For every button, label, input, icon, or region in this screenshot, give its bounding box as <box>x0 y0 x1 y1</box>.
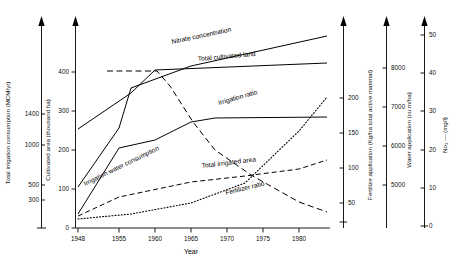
tick-label: 200 <box>348 94 359 101</box>
axis-arrow-icon <box>38 16 44 26</box>
tick-label: 1975 <box>256 235 271 242</box>
tick-label: 5000 <box>391 181 406 188</box>
tick-label: 0 <box>429 222 433 229</box>
axis-arrow-icon <box>421 16 427 26</box>
tick-label: 10 <box>429 184 437 191</box>
axis-water-application: 8000 7000 6000 5000 Water application (c… <box>383 16 413 228</box>
tick-label: 1980 <box>292 235 307 242</box>
axis-arrow-icon <box>72 16 78 26</box>
axis-title-year: Year <box>184 248 199 255</box>
tick-label: 1965 <box>184 235 199 242</box>
axis-year: 1948 1955 1960 1965 1970 1975 1980 Year <box>71 228 330 255</box>
tick-label: 40 <box>429 69 437 76</box>
tick-label: 1970 <box>220 235 235 242</box>
axis-arrow-icon <box>383 16 389 26</box>
tick-label: 1948 <box>71 235 86 242</box>
tick-label: 200 <box>58 146 69 153</box>
data-curves <box>78 36 327 219</box>
tick-label: 100 <box>348 164 359 171</box>
axis-title-cultivated-area: Cultivated area (thousand ha) <box>44 99 51 181</box>
tick-label: 1000 <box>25 141 40 148</box>
curve-label-total-cultivated-land: Total cultivated land <box>197 50 256 62</box>
axis-fertilizer-application: 200 150 100 50 Fertilize application (Kg… <box>340 16 374 228</box>
tick-label: 400 <box>58 68 69 75</box>
axis-title-water-application: Water application (cu.m/ha) <box>405 92 412 167</box>
tick-label: 7000 <box>391 103 406 110</box>
tick-label: 300 <box>58 107 69 114</box>
curve-label-irrigation-water-consumption: Irrigation water consumption <box>82 144 160 188</box>
curve-label-fertilizer-ratio: Fertilizer ratio <box>225 179 266 196</box>
axis-arrow-icon <box>340 16 346 26</box>
chart-canvas: 1400 1000 500 300 Total irrigation consu… <box>0 0 452 263</box>
series-irrigation-ratio <box>107 71 327 212</box>
tick-label: 8000 <box>391 64 406 71</box>
tick-label: 30 <box>429 107 437 114</box>
curve-label-total-irrigated-area: Total irrigated area <box>201 155 257 170</box>
axis-title-irrigation-consumption: Total irrigation consumption (MCM/yr) <box>4 82 11 185</box>
tick-label: 50 <box>348 199 356 206</box>
axis-irrigation-consumption: 1400 1000 500 300 Total irrigation consu… <box>4 16 46 228</box>
tick-label: 150 <box>348 129 359 136</box>
multi-axis-line-chart: 1400 1000 500 300 Total irrigation consu… <box>0 0 452 263</box>
curve-labels: Nitrate concentration Total cultivated l… <box>82 25 265 196</box>
tick-label: 1960 <box>148 235 163 242</box>
tick-label: 100 <box>58 185 69 192</box>
tick-label: 6000 <box>391 142 406 149</box>
tick-label: 300 <box>28 196 39 203</box>
axis-title-fertilizer-application: Fertilize application (Kg/ha total activ… <box>366 70 373 200</box>
series-fertilizer-ratio <box>78 97 327 219</box>
axis-cultivated-area: 400 300 200 100 0 Cultivated area (thous… <box>44 16 79 231</box>
tick-label: 1400 <box>25 110 40 117</box>
tick-label: 500 <box>28 181 39 188</box>
axis-title-nitrate-concentration: No₃ — (mg/l) <box>441 117 448 153</box>
tick-label: 50 <box>429 31 437 38</box>
series-total-cultivated-land <box>78 63 327 129</box>
axis-nitrate-concentration: 50 40 30 20 10 0 No₃ — (mg/l) <box>421 16 449 229</box>
tick-label: 0 <box>65 224 69 231</box>
tick-label: 1955 <box>112 235 127 242</box>
curve-label-irrigation-ratio: Irrigation ratio <box>217 88 258 107</box>
curve-label-nitrate-concentration: Nitrate concentration <box>171 25 232 45</box>
tick-label: 20 <box>429 146 437 153</box>
